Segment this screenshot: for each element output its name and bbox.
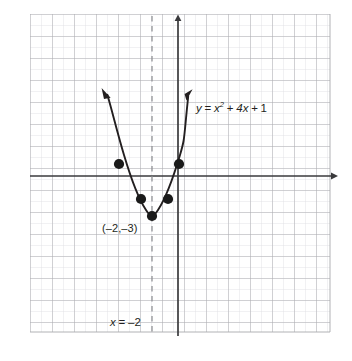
point-vertex [147,211,157,221]
equation-plus-1: + [227,102,234,114]
point-neg4-1 [114,159,124,169]
symmetry-equals: = [118,316,125,328]
equation-linear-term: 4x [236,102,249,114]
coordinate-plane [0,0,352,361]
point-neg3-neg2 [136,194,146,204]
grid-major [30,14,330,332]
equation-y: y [196,102,202,114]
point-neg1-neg2 [163,194,173,204]
vertex-coordinate-label: (–2,–3) [102,223,138,234]
equation-plus-2: + [251,102,258,114]
equation-equals: = [204,102,211,114]
symmetry-x: x [110,316,116,328]
parabola-figure: y=x2+4x+1 (–2,–3) x=–2 [0,0,352,361]
symmetry-value: –2 [128,316,141,328]
axis-of-symmetry-label: x=–2 [110,317,141,329]
equation-constant: 1 [261,102,268,114]
point-0-1 [174,159,184,169]
equation-label: y=x2+4x+1 [196,103,267,115]
equation-x-squared-exponent: 2 [220,100,224,109]
